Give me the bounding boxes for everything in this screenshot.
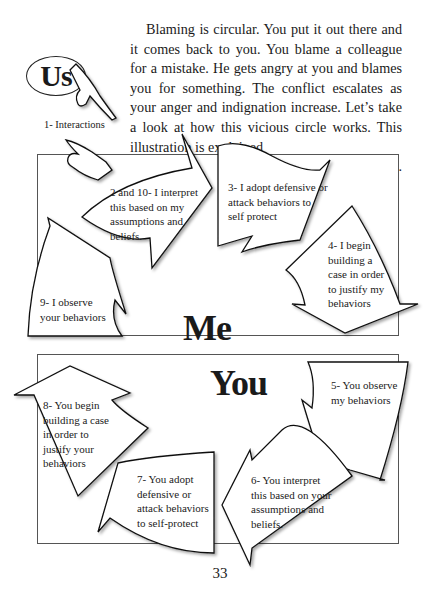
step-2-label: 2 and 10- I interpret this based on my a… [110, 185, 210, 243]
step-8-label: 8- You begin building a case in order to… [43, 398, 111, 471]
step-3-label: 3- I adopt defensive or attack behaviors… [228, 180, 328, 224]
step-4-label: 4- I begin building a case in order to j… [328, 238, 388, 311]
you-title: You [210, 362, 267, 404]
pointing-hand-icon [66, 140, 112, 180]
pointing-hand-icon [70, 64, 116, 120]
step-6-label: 6- You interpret this based on your assu… [251, 473, 333, 531]
step-5-label: 5- You observe my behaviors [331, 378, 403, 407]
me-title: Me [183, 307, 231, 349]
step-7-label: 7- You adopt defensive or attack behavio… [137, 472, 213, 530]
step-9-label: 9- I observe your behaviors [40, 295, 110, 324]
page-number: 33 [0, 565, 440, 582]
